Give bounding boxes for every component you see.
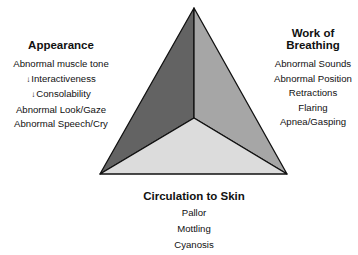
decrease-arrow-icon: ↓	[26, 75, 30, 84]
appearance-item: Abnormal Speech/Cry	[0, 117, 122, 132]
breathing-item: Retractions	[265, 86, 358, 101]
breathing-item: Abnormal Sounds	[265, 57, 358, 72]
circulation-title: Circulation to Skin	[114, 190, 274, 202]
circulation-item: Mottling	[114, 221, 274, 237]
appearance-item: ↓Interactiveness	[0, 72, 122, 88]
work-of-breathing-title: Work of Breathing	[265, 27, 358, 51]
breathing-item: Flaring	[265, 101, 358, 116]
breathing-item: Apnea/Gasping	[265, 115, 358, 130]
appearance-section: Appearance Abnormal muscle tone ↓Interac…	[0, 39, 122, 132]
work-of-breathing-section: Work of Breathing Abnormal Sounds Abnorm…	[265, 27, 358, 130]
breathing-item: Abnormal Position	[265, 72, 358, 87]
appearance-item: ↓Consolability	[0, 87, 122, 103]
circulation-to-skin-section: Circulation to Skin Pallor Mottling Cyan…	[114, 190, 274, 253]
decrease-arrow-icon: ↓	[31, 90, 35, 99]
circulation-item: Pallor	[114, 205, 274, 221]
appearance-item: Abnormal Look/Gaze	[0, 103, 122, 118]
appearance-item: Abnormal muscle tone	[0, 57, 122, 72]
appearance-title: Appearance	[0, 39, 122, 51]
circulation-item: Cyanosis	[114, 237, 274, 253]
